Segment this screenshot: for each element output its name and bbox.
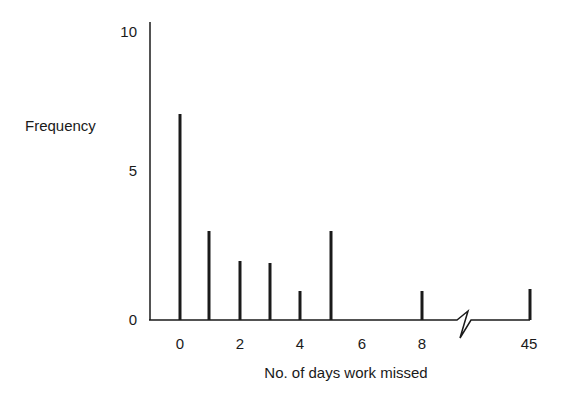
x-tick-0: 0 <box>176 335 184 352</box>
bars <box>180 114 530 320</box>
x-axis <box>149 311 530 338</box>
chart: 10 5 0 Frequency 0 2 4 6 8 45 No. of day… <box>0 0 565 400</box>
x-tick-45: 45 <box>521 335 538 352</box>
x-tick-8: 8 <box>418 335 426 352</box>
x-tick-4: 4 <box>296 335 304 352</box>
y-tick-5: 5 <box>129 162 137 179</box>
x-tick-6: 6 <box>358 335 366 352</box>
y-tick-10: 10 <box>120 23 137 40</box>
y-axis-label: Frequency <box>25 117 96 134</box>
y-tick-0: 0 <box>129 311 137 328</box>
x-axis-label: No. of days work missed <box>264 364 427 381</box>
x-tick-2: 2 <box>236 335 244 352</box>
